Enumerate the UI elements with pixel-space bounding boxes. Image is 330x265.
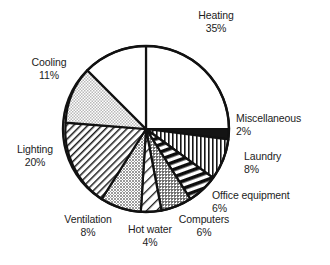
- pie-label-computers-value: 6%: [173, 226, 235, 239]
- pie-label-office-equipment: Office equipment 6%: [212, 189, 322, 214]
- pie-label-laundry-value: 8%: [244, 163, 314, 176]
- pie-label-lighting-name: Lighting: [4, 143, 66, 156]
- pie-label-office-equipment-name: Office equipment: [212, 189, 322, 202]
- pie-label-cooling-value: 11%: [18, 69, 80, 82]
- pie-chart-figure: Heating 35% Miscellaneous 2% Laundry 8% …: [0, 0, 330, 265]
- pie-label-heating: Heating 35%: [168, 9, 264, 34]
- pie-label-lighting-value: 20%: [4, 156, 66, 169]
- pie-label-lighting: Lighting 20%: [4, 143, 66, 168]
- pie-label-computers: Computers 6%: [173, 213, 235, 238]
- pie-label-laundry-name: Laundry: [244, 150, 314, 163]
- pie-label-hot-water-value: 4%: [119, 236, 181, 249]
- pie-label-hot-water: Hot water 4%: [119, 223, 181, 248]
- pie-label-hot-water-name: Hot water: [119, 223, 181, 236]
- pie-label-cooling-name: Cooling: [18, 56, 80, 69]
- pie-label-miscellaneous-value: 2%: [236, 125, 330, 138]
- pie-label-ventilation-value: 8%: [52, 226, 124, 239]
- pie-label-laundry: Laundry 8%: [244, 150, 314, 175]
- pie-label-miscellaneous-name: Miscellaneous: [236, 112, 330, 125]
- pie-slices: [63, 46, 229, 212]
- pie-label-heating-value: 35%: [168, 22, 264, 35]
- pie-label-ventilation-name: Ventilation: [52, 213, 124, 226]
- pie-label-ventilation: Ventilation 8%: [52, 213, 124, 238]
- pie-label-miscellaneous: Miscellaneous 2%: [236, 112, 330, 137]
- pie-label-computers-name: Computers: [173, 213, 235, 226]
- pie-label-heating-name: Heating: [168, 9, 264, 22]
- pie-label-cooling: Cooling 11%: [18, 56, 80, 81]
